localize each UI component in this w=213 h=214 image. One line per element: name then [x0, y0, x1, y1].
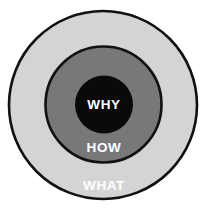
ring-why-label: WHY: [87, 97, 120, 112]
golden-circle-diagram: WHY HOW WHAT: [0, 0, 213, 214]
golden-circle-svg: WHY HOW WHAT: [0, 0, 213, 214]
ring-what-label: WHAT: [83, 178, 125, 193]
ring-how-label: HOW: [87, 140, 122, 155]
